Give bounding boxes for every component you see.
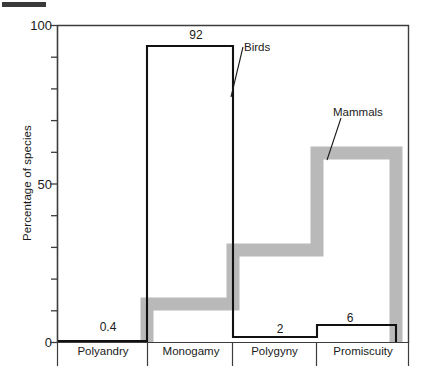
chart-figure: Percentage of species 100 50 0 0.4 92 2 …: [0, 0, 427, 373]
annotation-leaders: [231, 47, 341, 160]
y-axis-ticks: [50, 26, 57, 343]
chart-plot-svg: [0, 0, 427, 373]
category-dividers: [58, 342, 409, 366]
series-mammals-band: [147, 153, 396, 342]
